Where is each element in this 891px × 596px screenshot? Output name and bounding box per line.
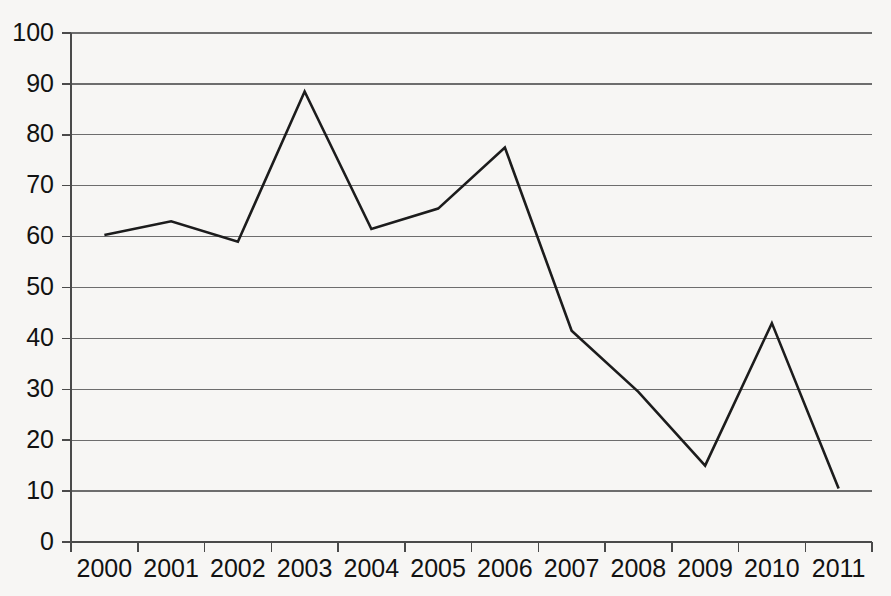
x-tick-label-2003: 2003 [277,554,333,582]
line-chart: 0102030405060708090100 20002001200220032… [0,0,891,596]
y-tick-label-50: 50 [26,272,54,300]
x-tick-label-2007: 2007 [544,554,600,582]
x-axis-tick-labels: 2000200120022003200420052006200720082009… [77,554,866,582]
y-tick-label-0: 0 [40,527,54,555]
x-tick-label-2000: 2000 [77,554,133,582]
y-tick-label-60: 60 [26,221,54,249]
x-tick-label-2006: 2006 [477,554,533,582]
x-axis-tick-marks [71,542,872,552]
y-tick-label-100: 100 [12,18,54,46]
gridlines [71,33,872,542]
y-tick-label-30: 30 [26,374,54,402]
x-tick-label-2004: 2004 [344,554,400,582]
y-tick-label-10: 10 [26,476,54,504]
x-tick-label-2010: 2010 [744,554,800,582]
y-tick-label-20: 20 [26,425,54,453]
y-tick-label-80: 80 [26,119,54,147]
x-tick-label-2009: 2009 [677,554,733,582]
x-tick-label-2002: 2002 [210,554,266,582]
chart-canvas: 0102030405060708090100 20002001200220032… [0,0,891,596]
y-axis-tick-labels: 0102030405060708090100 [12,18,54,555]
x-tick-label-2005: 2005 [410,554,466,582]
y-tick-label-40: 40 [26,323,54,351]
y-tick-label-90: 90 [26,69,54,97]
x-tick-label-2008: 2008 [611,554,667,582]
x-tick-label-2011: 2011 [812,554,866,582]
series-line-0 [104,92,838,489]
y-axis-tick-marks [62,33,71,542]
x-tick-label-2001: 2001 [143,554,199,582]
y-tick-label-70: 70 [26,170,54,198]
data-series [104,92,838,489]
